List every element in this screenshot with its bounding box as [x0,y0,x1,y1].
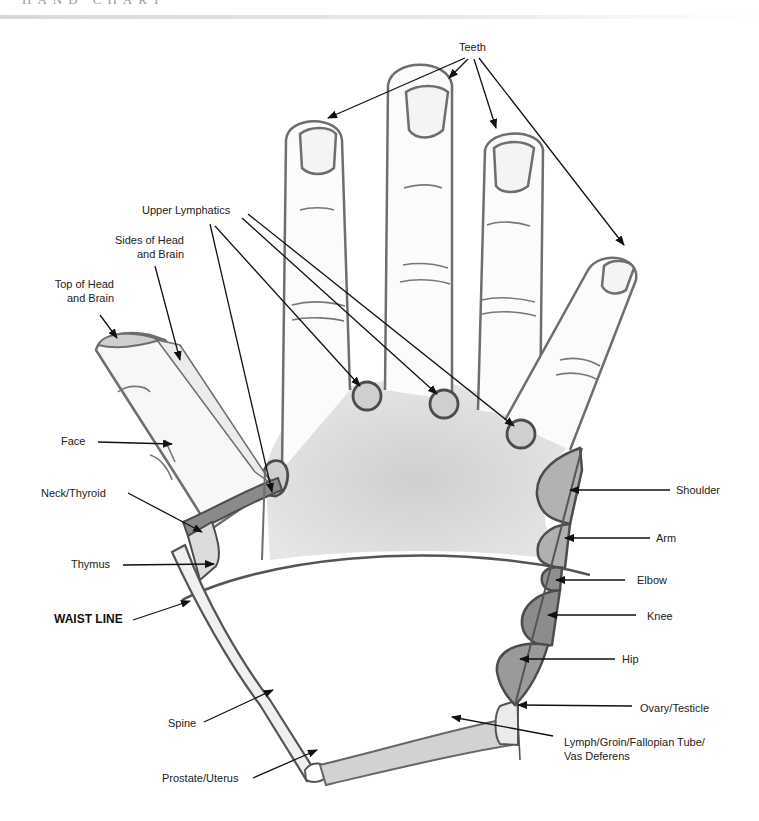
index-nail [300,128,336,174]
hand-illustration [0,0,759,821]
label-lymph-groin: Lymph/Groin/Fallopian Tube/ Vas Deferens [564,735,705,763]
label-waist-line: WAIST LINE [54,612,123,626]
waist-line [182,556,590,600]
label-thymus: Thymus [71,557,110,571]
ring-nail [494,142,534,192]
label-knee: Knee [647,609,673,623]
label-arm: Arm [656,531,676,545]
label-elbow: Elbow [637,573,667,587]
label-sides-of-head: Sides of Head and Brain [108,233,184,261]
middle-nail [406,86,448,138]
label-hip: Hip [622,652,639,666]
label-spine: Spine [168,716,196,730]
label-neck-thyroid: Neck/Thyroid [41,486,106,500]
ovary-testicle [496,700,519,745]
label-upper-lymphatics: Upper Lymphatics [142,203,230,217]
label-shoulder: Shoulder [676,483,720,497]
label-top-of-head: Top of Head and Brain [48,277,114,305]
lymph-point-middle [430,390,458,418]
label-face: Face [61,434,85,448]
knee-zone [522,590,560,646]
spine [172,545,318,781]
label-ovary-testicle: Ovary/Testicle [640,701,709,715]
lymph-groin-band [320,718,512,785]
label-prostate-uterus: Prostate/Uterus [162,771,238,785]
lymph-point-index [353,382,381,410]
label-teeth: Teeth [459,40,486,54]
